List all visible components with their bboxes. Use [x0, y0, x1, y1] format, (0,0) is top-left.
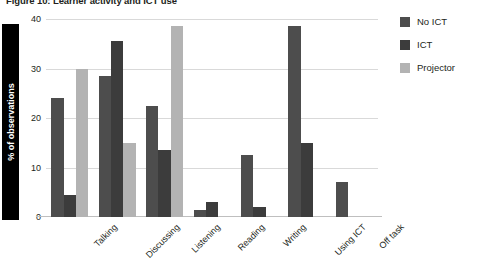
bar[interactable]: [241, 155, 253, 217]
bar-slot: [194, 19, 206, 217]
bar[interactable]: [76, 69, 88, 218]
bar-slot: [123, 19, 135, 217]
bar-slot: [301, 19, 313, 217]
bar-slot: [99, 19, 111, 217]
y-axis-tick-label: 20: [31, 113, 41, 123]
bar-slot: [76, 19, 88, 217]
x-axis-tick-label: Writing: [282, 222, 309, 249]
bar-slot: [51, 19, 63, 217]
legend-swatch-icon: [400, 63, 410, 73]
bar[interactable]: [99, 76, 111, 217]
bar-slot: [360, 19, 372, 217]
y-axis-title-bar: % of observations: [2, 24, 19, 220]
legend-swatch-icon: [400, 40, 410, 50]
bar-slot: [241, 19, 253, 217]
bar-slot: [206, 19, 218, 217]
bar[interactable]: [301, 143, 313, 217]
bar[interactable]: [288, 26, 300, 217]
bar-slot: [336, 19, 348, 217]
bar-group: [146, 19, 183, 217]
y-axis-tick-label: 0: [36, 212, 41, 222]
bar[interactable]: [123, 143, 135, 217]
bar[interactable]: [206, 202, 218, 217]
legend-swatch-icon: [400, 17, 410, 27]
y-axis-title: % of observations: [6, 83, 16, 161]
x-axis-tick-label: Discussing: [144, 222, 182, 260]
bar-slot: [146, 19, 158, 217]
bar[interactable]: [253, 207, 265, 217]
x-axis-tick-label: Off task: [377, 222, 406, 251]
bar[interactable]: [158, 150, 170, 217]
bar-slot: [158, 19, 170, 217]
bar-slot: [348, 19, 360, 217]
x-axis-tick-label: Using ICT: [333, 222, 368, 257]
bar-group: [51, 19, 88, 217]
bar-slot: [313, 19, 325, 217]
bar-slot: [253, 19, 265, 217]
legend-label: ICT: [417, 39, 432, 50]
legend-label: No ICT: [417, 16, 447, 27]
x-axis-tick-label: Talking: [92, 222, 119, 249]
bar-group: [241, 19, 278, 217]
bar-slot: [218, 19, 230, 217]
bar-slot: [111, 19, 123, 217]
legend-item[interactable]: No ICT: [400, 16, 455, 27]
bar-group: [99, 19, 136, 217]
x-axis-tick-label: Listening: [189, 222, 222, 255]
bar-group: [194, 19, 231, 217]
bar-group: [336, 19, 373, 217]
legend-item[interactable]: Projector: [400, 62, 455, 73]
legend-item[interactable]: ICT: [400, 39, 455, 50]
bar[interactable]: [111, 41, 123, 217]
bar[interactable]: [171, 26, 183, 217]
bar[interactable]: [194, 210, 206, 217]
figure-title: Figure 10: Learner activity and ICT use: [6, 0, 177, 6]
bar-slot: [64, 19, 76, 217]
bar[interactable]: [64, 195, 76, 217]
chart-legend: No ICTICTProjector: [400, 16, 455, 85]
bar-slot: [171, 19, 183, 217]
bar-slot: [288, 19, 300, 217]
bar[interactable]: [146, 106, 158, 217]
y-axis-tick-label: 40: [31, 14, 41, 24]
y-axis-tick-label: 30: [31, 64, 41, 74]
bar-group: [288, 19, 325, 217]
bar[interactable]: [51, 98, 63, 217]
x-axis-tick-label: Reading: [236, 222, 267, 253]
bar[interactable]: [336, 182, 348, 217]
bar-slot: [266, 19, 278, 217]
legend-label: Projector: [417, 62, 455, 73]
chart-plot-area: 010203040: [46, 19, 378, 217]
y-axis-tick-label: 10: [31, 163, 41, 173]
